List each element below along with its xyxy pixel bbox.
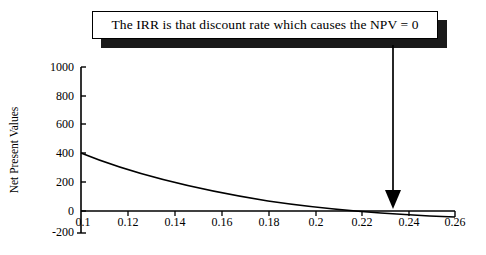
npv-irr-chart-figure: The IRR is that discount rate which caus…: [0, 0, 486, 255]
npv-curve: [81, 153, 455, 217]
chart-plot-svg: [0, 0, 486, 255]
irr-pointer-arrow: [385, 45, 401, 209]
